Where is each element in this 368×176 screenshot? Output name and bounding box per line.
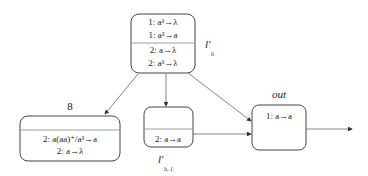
membrane-top: 1: a³→λ 1: a³→a 2: a→λ 2: a³→λ [131, 14, 195, 73]
membrane-label: l′ [205, 38, 211, 50]
diagram-canvas: 1: a³→λ 1: a³→a 2: a→λ 2: a³→λ l′ h 8 2:… [0, 0, 368, 176]
rule: 1: a³→λ [148, 17, 178, 27]
rule: 2: a³→λ [148, 58, 178, 68]
membrane-label-sub: h [211, 51, 214, 57]
rule: 2: a→λ [150, 45, 177, 55]
rule: 1: a→a [266, 111, 292, 121]
rule: 1: a³→a [149, 30, 178, 40]
rule: 2: a→a [155, 134, 181, 144]
arrow-top-to-left [105, 74, 138, 114]
membrane-right: 1: a→a [252, 105, 306, 150]
membrane-label: out [272, 88, 287, 100]
membrane-middle: 2: a→a [144, 107, 193, 147]
membrane-left: 2: a(aa)⁺/a³→a 2: a→λ [20, 116, 120, 161]
membrane-label-sub: h, 1 [164, 166, 173, 172]
membrane-label: l′ [158, 153, 164, 165]
rule: 2: a(aa)⁺/a³→a [43, 134, 97, 144]
arrow-top-to-right [188, 73, 251, 121]
membrane-label: 8 [67, 100, 73, 112]
rule: 2: a→λ [57, 146, 84, 156]
